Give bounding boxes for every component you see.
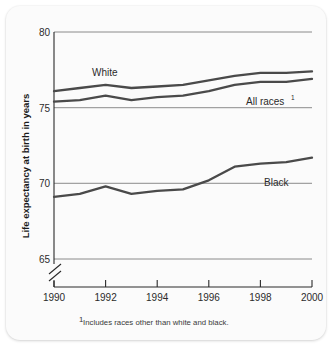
footnote: 1 Includes races other than white and bl… [79, 315, 229, 327]
footnote-text: Includes races other than white and blac… [83, 318, 229, 327]
x-tick-label-1990: 1990 [43, 292, 66, 303]
series-label-all-races: All races 1 [246, 94, 295, 107]
x-tick-label-1992: 1992 [94, 292, 117, 303]
series-label-all-races-text: All races [246, 96, 284, 107]
line-chart-svg: Life expectancy at birth in years 80 75 … [6, 6, 326, 340]
y-tick-label-70: 70 [39, 178, 51, 189]
y-axis-title: Life expectancy at birth in years [20, 94, 31, 239]
chart-card: Life expectancy at birth in years 80 75 … [6, 6, 326, 340]
x-tick-label-2000: 2000 [301, 292, 324, 303]
y-tick-label-75: 75 [39, 103, 51, 114]
series-label-white: White [92, 67, 118, 78]
series-label-black: Black [264, 177, 289, 188]
x-tick-label-1998: 1998 [249, 292, 272, 303]
axis-break-icon [49, 264, 61, 281]
y-tick-label-65: 65 [39, 254, 51, 265]
series-label-all-races-superscript: 1 [291, 94, 295, 101]
chart-plot-area: Life expectancy at birth in years 80 75 … [6, 6, 326, 340]
x-tick-label-1994: 1994 [146, 292, 169, 303]
x-tick-label-1996: 1996 [198, 292, 221, 303]
y-tick-label-80: 80 [39, 27, 51, 38]
